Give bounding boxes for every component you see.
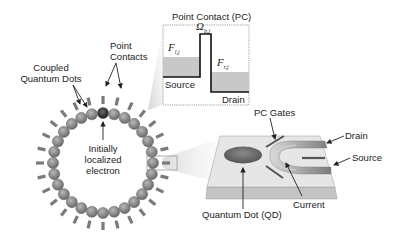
quantum-dot [119,202,130,213]
quantum-dot [142,179,153,190]
point-contact-gate [51,200,57,205]
point-contact-gate [156,189,163,192]
point-contact-gate [129,216,132,223]
zoom-wedge-inset [148,25,163,110]
drain-fill [211,72,249,92]
point-contact-gate [116,221,118,229]
quantum-dot [147,157,158,168]
point-contact-gate [88,221,90,229]
device-source-label: Source [352,152,382,163]
point-contact-gate [43,189,50,192]
point-contact-gate [61,111,66,117]
inset-drain-label: Drain [222,94,245,105]
point-contact-gate [38,148,46,150]
point-contact-gate [88,98,90,106]
device-drain-label: Drain [345,130,368,141]
right-sub: r,j [224,64,229,70]
quantum-dot [136,126,147,137]
point-contact-gate [161,148,169,150]
point-contact-gate [161,176,169,178]
f-right: F [217,56,224,68]
point-contact-gate [74,103,77,110]
point-contact-gate [149,121,155,126]
quantum-dot [49,169,60,180]
label-line: Contacts [110,51,148,62]
point-contact-gate [61,209,66,215]
quantum-dot-ellipse [224,147,262,164]
localized-electron-dot [97,107,108,118]
point-contact-gate [51,121,57,126]
quantum-dot [47,157,58,168]
point-contact-gate [156,134,163,137]
point-contact-gate [74,216,77,223]
current-label: Current [293,199,325,210]
quantum-dot [58,189,69,200]
point-contact-gate [116,98,118,106]
point-contact-gate [43,134,50,137]
left-level-label: Fl,j [168,42,180,58]
inset-source-label: Source [165,79,195,90]
point-contacts-label: Point Contacts [110,40,148,62]
device-3d [206,136,337,199]
initial-electron-label: Initially localized electron [76,143,130,176]
point-contact-gate [149,200,155,205]
quantum-dot [86,206,97,217]
barrier-label: Ωb,j [196,21,210,37]
label-line: Point [110,40,148,51]
quantum-dot [52,179,63,190]
diagram: Coupled Quantum Dots Point Contacts Init… [0,0,397,243]
left-sub: l,j [175,49,180,55]
quantum-dot [142,136,153,147]
source-fill [163,57,200,77]
quantum-dot [76,112,87,123]
f-left: F [168,41,175,53]
barrier-sub: b,j [204,28,210,34]
label-line: electron [76,165,130,176]
quantum-dot-label: Quantum Dot (QD) [202,209,282,220]
label-line: Coupled [20,62,82,73]
point-contact-gate [140,111,145,117]
right-level-label: Fr,j [217,57,229,73]
quantum-dot [109,109,120,120]
point-contact-gate [140,209,145,215]
quantum-dot [109,206,120,217]
quantum-dot [97,207,108,218]
pc-gates-label: PC Gates [254,107,295,118]
quantum-dot [119,112,130,123]
quantum-dot [86,109,97,120]
quantum-dot [52,136,63,147]
label-line: localized [76,154,130,165]
label-line: Initially [76,143,130,154]
coupled-dots-label: Coupled Quantum Dots [20,62,82,84]
quantum-dot [66,118,77,129]
point-contact-gate [129,103,132,110]
device-side [206,187,337,199]
quantum-dot [129,196,140,207]
pc-inset-title: Point Contact (PC) [172,11,251,22]
point-contact-gate [38,176,46,178]
quantum-dot [49,146,60,157]
quantum-dot [76,202,87,213]
label-line: Quantum Dots [20,73,82,84]
omega: Ω [196,20,204,32]
